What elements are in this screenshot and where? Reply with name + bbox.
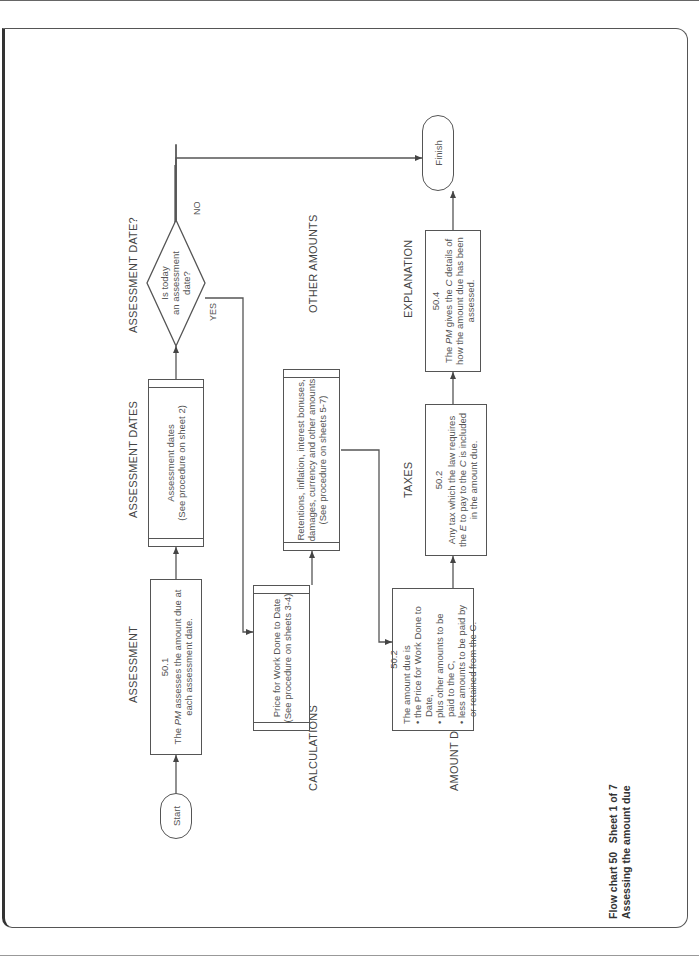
assessment-dates-box: Assessment dates (See procedure on sheet…: [148, 379, 204, 547]
finish-terminal: Finish: [422, 115, 454, 191]
decision-text: Is today an assessment date?: [159, 245, 192, 321]
amount-due-ref: 50.2: [388, 650, 399, 669]
taxes-ref: 50.2: [433, 471, 444, 490]
amount-due-intro: The amount due is: [401, 645, 412, 724]
explanation-text: The PM gives the C details of how the am…: [443, 235, 476, 367]
amount-due-box: 50.2 The amount due is • the Price for W…: [392, 588, 474, 731]
explanation-box: 50.4 The PM gives the C details of how t…: [425, 230, 481, 372]
assessment-text: The PM assesses the amount due at each a…: [172, 584, 194, 750]
amount-due-bullet-3: • less amounts to be paid by or retained…: [456, 595, 478, 724]
lane-assessment-dates: ASSESSMENT DATES: [127, 401, 139, 518]
decision-no-label: NO: [192, 202, 202, 216]
lane-assessment-date-question: ASSESSMENT DATE?: [127, 217, 139, 333]
decision-yes-label: YES: [208, 303, 218, 321]
price-line1: Price for Work Done to Date: [271, 599, 282, 718]
amount-due-bullet-1: • the Price for Work Done to Date,: [412, 595, 434, 724]
explanation-ref: 50.4: [430, 292, 441, 311]
other-amounts-line1: Retentions, inflation, interest bonuses,: [295, 379, 306, 540]
assessment-box: 50.1 The PM assesses the amount due at e…: [150, 579, 202, 755]
caption-sheet: Sheet 1 of 7: [607, 784, 619, 843]
lane-taxes: TAXES: [402, 462, 414, 498]
taxes-text: Any tax which the law requires the E to …: [446, 409, 479, 551]
start-label: Start: [171, 806, 182, 826]
flowchart-canvas: ASSESSMENT ASSESSMENT DATES ASSESSMENT D…: [0, 0, 699, 971]
caption-subtitle: Assessing the amount due: [620, 784, 633, 919]
other-amounts-box: Retentions, inflation, interest bonuses,…: [283, 369, 340, 551]
chart-caption: Flow chart 50 Sheet 1 of 7 Assessing the…: [607, 784, 633, 919]
lane-other-amounts: OTHER AMOUNTS: [307, 214, 319, 313]
price-for-work-box: Price for Work Done to Date (See procedu…: [253, 585, 310, 731]
caption-title: Flow chart 50: [607, 852, 619, 919]
assessment-ref: 50.1: [159, 658, 170, 677]
other-amounts-line2: damages, currency and other amounts: [306, 379, 317, 542]
amount-due-bullet-2: • plus other amounts to be paid to the C…: [434, 595, 456, 724]
assessment-dates-line1: Assessment dates: [165, 424, 176, 502]
lane-assessment: ASSESSMENT: [127, 626, 139, 703]
finish-label: Finish: [433, 140, 444, 165]
start-terminal: Start: [160, 793, 192, 839]
price-line2: (See procedure on sheets 3-4): [282, 594, 293, 723]
lane-explanation: EXPLANATION: [402, 240, 414, 318]
connectors: [0, 0, 699, 971]
assessment-dates-line2: (See procedure on sheet 2): [176, 405, 187, 521]
other-amounts-line3: (See procedure on sheets 5-7): [317, 396, 328, 525]
taxes-box: 50.2 Any tax which the law requires the …: [425, 404, 487, 556]
